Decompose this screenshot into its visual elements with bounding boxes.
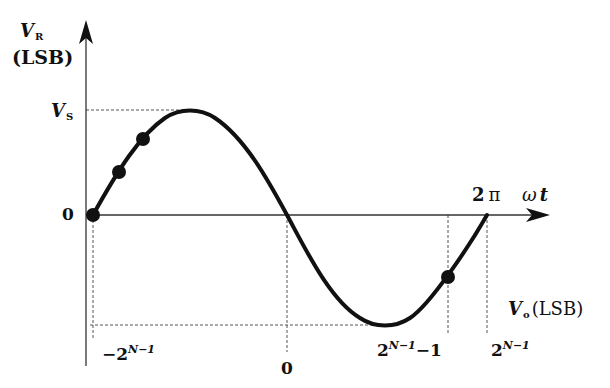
- tick-suffix: −1: [416, 340, 442, 360]
- omega-symbol: ω: [522, 184, 537, 205]
- vs-symbol: V: [51, 100, 65, 121]
- tick-prefix: 2: [491, 340, 503, 360]
- vs-subscript: S: [66, 111, 73, 122]
- sample-point-1: [112, 165, 126, 179]
- sample-point-last: [441, 270, 455, 284]
- vo-subscript: o: [523, 309, 530, 320]
- period-label: 2π: [472, 186, 500, 204]
- sine-wave-diagram: [0, 0, 610, 388]
- period-number: 2: [472, 184, 485, 205]
- tick-exponent: N−1: [503, 339, 530, 352]
- y-axis-symbol: V: [20, 20, 34, 41]
- period-pi: π: [489, 184, 501, 205]
- sine-curve: [93, 111, 487, 326]
- sample-points: [86, 132, 455, 284]
- tick-exponent-text: N−1: [503, 339, 530, 352]
- t-symbol: t: [540, 184, 548, 205]
- sample-point-2: [136, 132, 150, 146]
- dashed-guides: [86, 110, 487, 352]
- vo-symbol: V: [508, 298, 522, 319]
- code-axis-label: Vo(LSB): [508, 300, 583, 320]
- y-axis-label: VR: [20, 22, 43, 42]
- time-axis-label: ωt: [522, 186, 548, 204]
- y-axis-subscript: R: [35, 31, 43, 42]
- code-tick-neg-full-scale: −2N−1: [102, 344, 155, 363]
- tick-exponent: N−1: [128, 343, 155, 356]
- tick-exponent: N−1: [389, 339, 416, 352]
- tick-prefix: −2: [102, 344, 128, 364]
- code-tick-max-code: 2N−1−1: [377, 340, 442, 359]
- code-tick-full-scale: 2N−1: [491, 340, 530, 359]
- tick-exponent-text: N−1: [128, 343, 155, 356]
- tick-exponent-text: N−1: [389, 339, 416, 352]
- code-tick-zero: 0: [281, 360, 293, 377]
- vo-unit: (LSB): [532, 298, 584, 319]
- tick-prefix: 2: [377, 340, 389, 360]
- y-zero-tick-label: 0: [62, 206, 74, 223]
- sample-point-start: [86, 208, 100, 222]
- y-axis-unit: (LSB): [12, 48, 73, 67]
- vs-tick-label: VS: [51, 102, 73, 122]
